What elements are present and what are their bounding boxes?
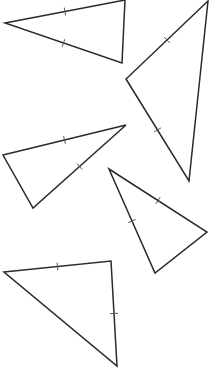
triangle-5 <box>4 261 118 366</box>
triangle-1 <box>5 0 125 63</box>
triangle-outline <box>4 261 117 366</box>
triangle-outline <box>109 169 207 273</box>
triangle-outline <box>126 1 208 181</box>
triangle-2 <box>126 1 208 181</box>
triangles-canvas <box>0 0 209 382</box>
triangle-outline <box>3 125 126 208</box>
tick-mark <box>156 197 160 204</box>
tick-mark <box>154 128 161 132</box>
tick-mark <box>57 263 58 271</box>
triangle-3 <box>3 125 126 208</box>
triangle-4 <box>109 169 207 273</box>
